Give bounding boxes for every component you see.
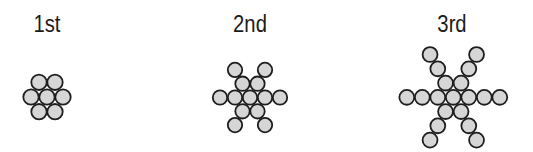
circle-cell: [461, 118, 476, 133]
circle-cell: [430, 90, 445, 105]
circle-cell: [228, 90, 242, 104]
circle-figures: [0, 0, 533, 152]
figure-2nd-star: [213, 63, 287, 133]
snowflake-growth-diagram: 1st 2nd 3rd: [0, 0, 533, 152]
circle-cell: [273, 90, 287, 104]
circle-cell: [446, 90, 461, 105]
circle-cell: [39, 89, 54, 104]
circle-cell: [258, 90, 272, 104]
circle-cell: [250, 77, 264, 91]
circle-cell: [228, 63, 242, 77]
circle-cell: [430, 61, 445, 76]
circle-cell: [243, 90, 257, 104]
circle-cell: [430, 118, 445, 133]
figure-1st-hexagon: [23, 75, 70, 120]
circle-cell: [492, 90, 507, 105]
circle-cell: [228, 118, 242, 132]
circle-cell: [250, 104, 264, 118]
circle-cell: [235, 77, 249, 91]
circle-cell: [438, 104, 453, 119]
circle-cell: [423, 133, 438, 148]
circle-cell: [31, 104, 46, 119]
circle-cell: [235, 104, 249, 118]
circle-cell: [47, 75, 62, 90]
figure-3rd-star: [399, 47, 507, 147]
circle-cell: [461, 61, 476, 76]
circle-cell: [423, 47, 438, 62]
circle-cell: [454, 76, 469, 91]
circle-cell: [258, 118, 272, 132]
circle-cell: [213, 90, 227, 104]
circle-cell: [454, 104, 469, 119]
circle-cell: [469, 133, 484, 148]
circle-cell: [415, 90, 430, 105]
circle-cell: [461, 90, 476, 105]
circle-cell: [438, 76, 453, 91]
circle-cell: [31, 75, 46, 90]
circle-cell: [55, 89, 70, 104]
circle-cell: [47, 104, 62, 119]
circle-cell: [23, 89, 38, 104]
circle-cell: [399, 90, 414, 105]
circle-cell: [469, 47, 484, 62]
circle-cell: [477, 90, 492, 105]
circle-cell: [258, 63, 272, 77]
